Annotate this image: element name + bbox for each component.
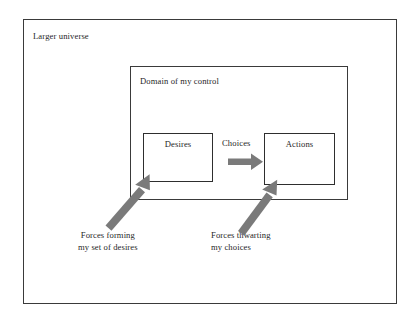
larger-universe-label: Larger universe xyxy=(33,31,89,42)
forces-thwarting-choices-caption: Forces thwarting my choices xyxy=(211,229,271,253)
desires-box: Desires xyxy=(143,133,213,182)
caption-line-2: my set of desires xyxy=(78,241,138,253)
forces-forming-desires-caption: Forces forming my set of desires xyxy=(78,229,138,253)
desires-label: Desires xyxy=(144,139,212,150)
diagram-canvas: Larger universe Domain of my control Des… xyxy=(0,0,416,319)
caption-line-2: my choices xyxy=(211,241,271,253)
caption-line-1: Forces thwarting xyxy=(211,229,271,241)
actions-box: Actions xyxy=(264,133,335,185)
domain-of-my-control-label: Domain of my control xyxy=(140,76,219,87)
choices-label: Choices xyxy=(222,138,251,149)
actions-label: Actions xyxy=(265,139,334,150)
caption-line-1: Forces forming xyxy=(78,229,138,241)
